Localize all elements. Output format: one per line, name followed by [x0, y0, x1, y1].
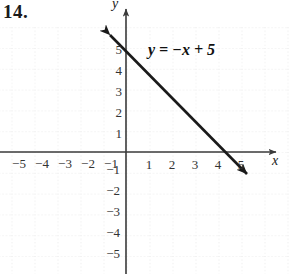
- x-tick-neg2: −2: [80, 157, 96, 170]
- y-tick-2: 2: [104, 106, 122, 119]
- coordinate-plane-svg: [0, 0, 290, 274]
- y-tick-neg5: −5: [102, 247, 120, 260]
- y-tick-3: 3: [104, 85, 122, 98]
- y-tick-neg1: −1: [102, 163, 120, 176]
- y-tick-5: 5: [104, 43, 122, 56]
- x-tick-neg3: −3: [57, 157, 73, 170]
- y-tick-neg3: −3: [102, 205, 120, 218]
- x-tick-neg5: −5: [11, 157, 27, 170]
- x-tick-1: 1: [141, 158, 157, 171]
- y-tick-neg2: −2: [102, 184, 120, 197]
- x-tick-5: 5: [233, 158, 249, 171]
- x-tick-4: 4: [210, 158, 226, 171]
- y-tick-neg4: −4: [102, 226, 120, 239]
- graph-figure: 14.: [0, 0, 290, 274]
- x-axis-label: x: [272, 154, 278, 168]
- x-tick-2: 2: [164, 158, 180, 171]
- equation-annotation: y = −x + 5: [148, 41, 215, 59]
- x-tick-neg4: −4: [34, 157, 50, 170]
- y-axis-label: y: [112, 0, 118, 11]
- y-tick-4: 4: [104, 64, 122, 77]
- x-tick-3: 3: [187, 158, 203, 171]
- y-tick-1: 1: [104, 127, 122, 140]
